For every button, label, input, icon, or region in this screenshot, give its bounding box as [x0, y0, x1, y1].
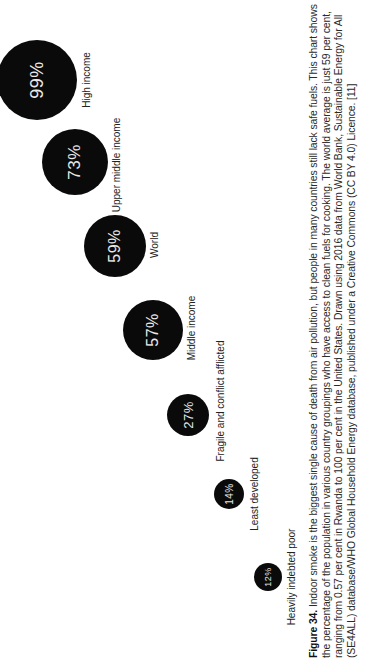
bubble-value: 27%: [181, 401, 196, 429]
bubble-value: 99%: [27, 61, 48, 99]
rotated-figure: 12% Heavily indebted poor 14% Least deve…: [0, 0, 372, 661]
bubble-middle-income: 57%: [123, 300, 183, 360]
bubble-world: 59%: [84, 215, 146, 277]
label-world: World: [149, 232, 160, 258]
bubble-heavily-indebted-poor: 12%: [254, 563, 282, 591]
bubble-value: 57%: [144, 313, 162, 347]
figure-number: Figure 34.: [308, 610, 319, 658]
bubble-least-developed: 14%: [214, 479, 244, 509]
caption-text: Indoor smoke is the biggest single cause…: [308, 4, 357, 658]
label-heavily-indebted-poor: Heavily indebted poor: [286, 529, 297, 626]
label-least-developed: Least developed: [249, 457, 260, 530]
label-high-income: High income: [81, 52, 92, 108]
bubble-value: 73%: [65, 144, 85, 180]
bubble-value: 14%: [224, 483, 235, 505]
label-upper-middle-income: Upper middle income: [111, 118, 122, 213]
label-fragile-conflict: Fragile and conflict afflicted: [215, 341, 226, 462]
bubble-fragile-conflict: 27%: [167, 394, 209, 436]
bubble-value: 59%: [106, 229, 124, 263]
bubble-upper-middle-income: 73%: [42, 129, 108, 195]
bubble-value: 12%: [263, 567, 273, 587]
label-middle-income: Middle income: [186, 296, 197, 360]
figure-caption: Figure 34. Indoor smoke is the biggest s…: [308, 0, 359, 658]
bubble-high-income: 99%: [0, 40, 77, 120]
